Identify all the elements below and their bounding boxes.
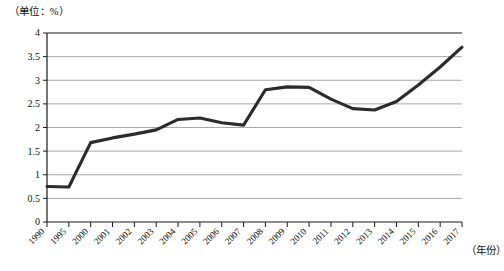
x-axis-tick-label: 2017 [441, 226, 461, 246]
y-axis-tick-label: 3 [35, 75, 40, 86]
y-axis-tick-label: 1.5 [28, 146, 41, 157]
y-axis-tick-label: 0.5 [28, 193, 41, 204]
y-axis-tick-labels: 43.532.521.510.50 [28, 27, 41, 227]
x-axis-tick-marks [47, 222, 462, 227]
x-axis-tick-label: 2001 [92, 226, 112, 246]
x-axis-tick-label: 2012 [332, 226, 352, 246]
y-axis-tick-label: 3.5 [28, 51, 41, 62]
x-axis-tick-label: 2007 [223, 226, 243, 246]
x-axis-tick-label: 2015 [398, 226, 418, 246]
data-series-line [47, 47, 462, 187]
x-axis-tick-labels: 1990199520002001200220032004200520062007… [26, 226, 461, 246]
x-axis-tick-label: 2013 [354, 226, 374, 246]
x-axis-tick-label: 1990 [26, 226, 46, 246]
x-axis-title: （年份） [466, 245, 504, 257]
x-axis-tick-label: 2014 [376, 226, 396, 246]
x-axis-tick-label: 2002 [114, 226, 134, 246]
y-axis-tick-label: 0 [35, 216, 40, 227]
gridlines [47, 57, 462, 199]
y-axis-tick-label: 1 [35, 169, 40, 180]
x-axis-tick-label: 2010 [288, 226, 308, 246]
x-axis-tick-label: 2009 [267, 226, 287, 246]
x-axis-tick-label: 2005 [179, 226, 199, 246]
x-axis-tick-label: 2004 [157, 226, 177, 246]
x-axis-tick-label: 2011 [311, 226, 331, 246]
y-axis-tick-label: 2.5 [28, 98, 41, 109]
x-axis-tick-label: 2006 [201, 226, 221, 246]
x-axis-tick-label: 1995 [48, 226, 68, 246]
x-axis-tick-label: 2003 [136, 226, 156, 246]
x-axis-tick-label: 2008 [245, 226, 265, 246]
x-axis-tick-label: 2000 [70, 226, 90, 246]
y-axis-tick-label: 4 [35, 27, 40, 38]
y-axis-tick-label: 2 [35, 122, 40, 133]
x-axis-tick-label: 2016 [420, 226, 440, 246]
